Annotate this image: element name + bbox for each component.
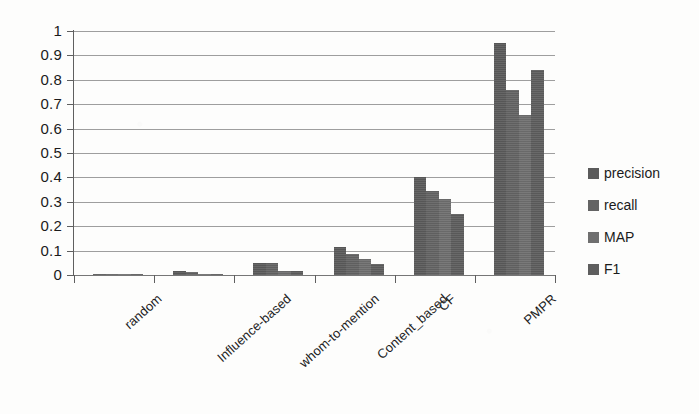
bar-group xyxy=(494,31,544,275)
legend-item-f1[interactable]: F1 xyxy=(588,256,696,282)
y-axis-tick-label: 0.1 xyxy=(14,242,62,259)
bar-map-cf xyxy=(439,199,452,275)
x-axis-label-random: random xyxy=(122,291,165,332)
legend-swatch-recall xyxy=(588,200,599,211)
bar-map-pmpr xyxy=(519,115,532,275)
x-axis-label-pmpr: PMPR xyxy=(521,291,559,328)
y-axis-tick-label: 0 xyxy=(14,266,62,283)
y-axis-tick-label: 0.5 xyxy=(14,144,62,161)
bar-recall-pmpr xyxy=(506,90,519,275)
legend-label-recall: recall xyxy=(604,197,637,213)
y-axis-tick xyxy=(67,129,74,130)
y-axis-tick-label: 0.2 xyxy=(14,217,62,234)
y-axis-tick-label: 0.6 xyxy=(14,120,62,137)
legend-swatch-map xyxy=(588,232,599,243)
bar-recall-content-based xyxy=(346,254,359,275)
bar-map-content-based xyxy=(359,259,372,275)
x-axis-label-whom-to-mention: whom-to-mention xyxy=(297,291,383,370)
x-axis-tick xyxy=(475,275,476,283)
y-axis-tick xyxy=(67,31,74,32)
bar-precision-pmpr xyxy=(494,43,507,275)
y-axis-tick xyxy=(67,275,74,276)
gridline xyxy=(74,153,555,154)
gridline xyxy=(74,31,555,32)
gridline xyxy=(74,251,555,252)
bar-precision-cf xyxy=(414,177,427,275)
chart-legend: precisionrecallMAPF1 xyxy=(588,160,696,288)
y-axis-tick xyxy=(67,251,74,252)
y-axis-tick xyxy=(67,153,74,154)
plot-area xyxy=(74,31,555,275)
y-axis-tick-label: 0.8 xyxy=(14,71,62,88)
y-axis-tick xyxy=(67,177,74,178)
x-axis-tick xyxy=(555,275,556,283)
legend-swatch-f1 xyxy=(588,264,599,275)
bar-group xyxy=(173,31,223,275)
legend-label-map: MAP xyxy=(604,229,634,245)
gridline xyxy=(74,226,555,227)
bar-f1-pmpr xyxy=(531,70,544,275)
bar-precision-content-based xyxy=(334,247,347,275)
gridline xyxy=(74,55,555,56)
x-axis-tick xyxy=(154,275,155,283)
y-axis-tick-label: 1 xyxy=(14,22,62,39)
bar-group xyxy=(334,31,384,275)
legend-label-precision: precision xyxy=(604,165,660,181)
y-axis-tick xyxy=(67,226,74,227)
gridline xyxy=(74,104,555,105)
bar-recall-whom-to-mention xyxy=(266,263,279,275)
bar-f1-content-based xyxy=(371,264,384,275)
y-axis-tick-label: 0.4 xyxy=(14,168,62,185)
bar-f1-cf xyxy=(451,214,464,275)
bar-group xyxy=(414,31,464,275)
bar-group xyxy=(253,31,303,275)
gridline xyxy=(74,80,555,81)
x-axis-line xyxy=(74,275,555,276)
bar-precision-whom-to-mention xyxy=(253,263,266,275)
legend-swatch-precision xyxy=(588,168,599,179)
x-axis-tick xyxy=(74,275,75,283)
y-axis-tick-label: 0.3 xyxy=(14,193,62,210)
y-axis-tick xyxy=(67,202,74,203)
y-axis-tick xyxy=(67,55,74,56)
bar-group xyxy=(93,31,143,275)
x-axis-tick xyxy=(395,275,396,283)
x-axis-label-influence-based: Influence-based xyxy=(214,291,294,365)
legend-item-precision[interactable]: precision xyxy=(588,160,696,186)
y-axis-tick xyxy=(67,104,74,105)
gridline xyxy=(74,129,555,130)
bar-chart-figure: 10.90.80.70.60.50.40.30.20.10 randomInfl… xyxy=(0,0,699,414)
bar-recall-cf xyxy=(426,191,439,275)
legend-item-map[interactable]: MAP xyxy=(588,224,696,250)
gridline xyxy=(74,177,555,178)
x-axis-tick xyxy=(234,275,235,283)
x-axis-tick xyxy=(315,275,316,283)
y-axis-tick xyxy=(67,80,74,81)
legend-item-recall[interactable]: recall xyxy=(588,192,696,218)
legend-label-f1: F1 xyxy=(604,261,620,277)
gridline xyxy=(74,202,555,203)
y-axis-tick-label: 0.9 xyxy=(14,46,62,63)
y-axis-tick-label: 0.7 xyxy=(14,95,62,112)
